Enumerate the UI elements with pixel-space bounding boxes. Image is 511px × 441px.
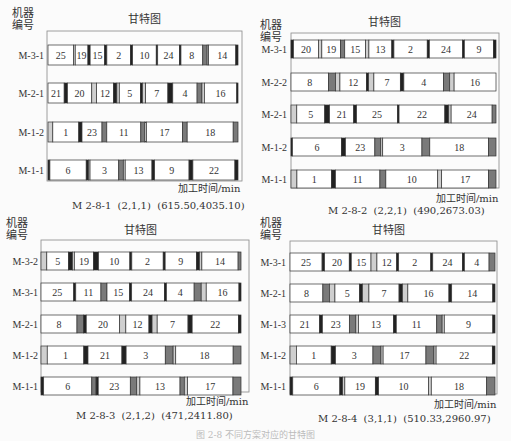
job-label: 9 (169, 165, 174, 176)
setup-dark-block (130, 377, 136, 395)
job-label: 24 (443, 257, 453, 268)
job-label: 10 (139, 50, 149, 61)
job-label: 9 (178, 256, 183, 267)
job-label: 3 (102, 165, 107, 176)
job-label: 10 (109, 256, 119, 267)
row-label: M-1-1 (260, 381, 286, 392)
setup-dark-block (233, 346, 241, 364)
gantt-chart: M-3-1201915132249M-2-28127416M-2-1521252… (256, 0, 511, 218)
job-label: 16 (470, 77, 480, 88)
transfer-black-block (399, 284, 402, 302)
job-label: 23 (87, 127, 97, 138)
row-label: M-2-1 (261, 109, 287, 120)
transfer-black-block (237, 83, 238, 103)
job-label: 25 (301, 257, 311, 268)
setup-dark-block (380, 170, 386, 188)
setup-light-block (366, 40, 369, 58)
transfer-black-block (84, 315, 87, 333)
gantt-panel-2: 机器 编号 甘特图 M-3-1201915132249M-2-28127416M… (256, 0, 511, 218)
job-label: 13 (134, 165, 144, 176)
job-label: 25 (56, 50, 66, 61)
row-label: M-3-2 (12, 256, 38, 267)
job-label: 3 (352, 350, 357, 361)
job-label: 5 (127, 88, 132, 99)
setup-dark-block (180, 377, 184, 395)
job-label: 7 (385, 77, 390, 88)
setup-dark-block (141, 122, 145, 142)
row-label: M-1-2 (18, 127, 44, 138)
machine-row: M-2-1521252224 (261, 105, 496, 123)
job-label: 22 (209, 165, 219, 176)
job-label: 19 (326, 44, 336, 55)
gantt-panel-4: 机器 编号 甘特图 M-3-1252015122244M-2-18571614M… (256, 218, 511, 436)
job-label: 1 (312, 174, 317, 185)
machine-row: M-2-121201257416 (18, 83, 238, 103)
transfer-black-block (236, 45, 238, 65)
transfer-black-block (197, 252, 200, 270)
transfer-black-block (493, 284, 495, 302)
job-label: 8 (189, 50, 194, 61)
row-label: M-2-2 (261, 77, 287, 88)
job-label: 18 (454, 381, 464, 392)
job-label: 21 (300, 319, 310, 330)
transfer-black-block (84, 346, 88, 364)
job-label: 8 (307, 77, 312, 88)
job-label: 17 (400, 350, 410, 361)
job-label: 21 (337, 109, 347, 120)
setup-light-block (290, 346, 296, 364)
transfer-black-block (79, 122, 82, 142)
setup-dark-block (349, 315, 355, 333)
job-label: 15 (356, 257, 366, 268)
job-label: 11 (84, 287, 94, 298)
setup-dark-block (426, 346, 434, 364)
machine-row: M-2-18571614 (260, 284, 495, 302)
job-label: 7 (154, 88, 159, 99)
transfer-black-block (445, 105, 449, 123)
setup-dark-block (101, 283, 107, 301)
machine-row: M-3-125191521024814 (18, 45, 238, 65)
job-label: 14 (217, 50, 227, 61)
setup-light-block (356, 315, 359, 333)
setup-light-block (329, 284, 334, 302)
x-axis-label: 加工时间/min (186, 393, 249, 408)
transfer-black-block (290, 377, 293, 395)
setup-dark-block (437, 315, 442, 333)
setup-light-block (371, 253, 377, 271)
transfer-black-block (149, 315, 152, 333)
job-label: 19 (77, 50, 87, 61)
job-label: 23 (355, 142, 365, 153)
job-label: 7 (382, 288, 387, 299)
job-label: 25 (52, 287, 62, 298)
job-label: 18 (454, 142, 464, 153)
row-label: M-1-2 (12, 350, 38, 361)
row-label: M-1-2 (260, 350, 286, 361)
setup-dark-block (182, 122, 187, 142)
setup-dark-block (165, 346, 173, 364)
setup-dark-block (489, 253, 495, 271)
x-axis-label: 加工时间/min (434, 396, 497, 411)
setup-dark-block (233, 122, 238, 142)
setup-light-block (41, 252, 47, 270)
setup-light-block (199, 252, 201, 270)
setup-light-block (120, 315, 126, 333)
job-label: 11 (119, 127, 129, 138)
job-label: 21 (51, 88, 61, 99)
job-label: 15 (92, 50, 102, 61)
job-label: 10 (407, 174, 417, 185)
row-label: M-3-1 (18, 50, 44, 61)
job-label: 9 (476, 44, 481, 55)
setup-dark-block (238, 252, 241, 270)
transfer-black-block (291, 40, 294, 58)
setup-light-block (201, 283, 206, 301)
job-label: 13 (155, 381, 165, 392)
transfer-black-block (69, 252, 73, 270)
machine-row: M-2-28127416 (261, 73, 496, 91)
job-label: 22 (459, 350, 469, 361)
setup-dark-block (203, 45, 207, 65)
job-label: 23 (109, 381, 119, 392)
row-label: M-1-1 (261, 174, 287, 185)
setup-light-block (449, 105, 451, 123)
job-label: 23 (331, 319, 341, 330)
job-label: 24 (143, 287, 153, 298)
job-label: 3 (143, 350, 148, 361)
